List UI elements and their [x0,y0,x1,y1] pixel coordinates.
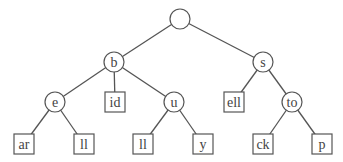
internal-node-root [170,9,190,29]
node-label: to [287,95,298,110]
node-label: y [200,137,207,152]
node-circle [170,9,190,29]
leaf-node-ck: ck [253,134,273,154]
leaf-node-ar: ar [14,134,34,154]
node-label: ck [256,137,269,152]
node-label: b [111,55,118,70]
edge-root-b [114,19,180,62]
internal-node-u: u [164,92,184,112]
leaf-node-p: p [312,134,332,154]
node-label: p [319,137,326,152]
node-label: e [52,95,58,110]
edge-root-s [180,19,263,62]
internal-node-s: s [253,52,273,72]
internal-node-to: to [282,92,302,112]
node-label: ell [227,95,241,110]
leaf-node-id: id [105,92,125,112]
nodes: bseiduelltoarllllyckp [14,9,332,154]
leaf-node-ell: ell [224,92,244,112]
leaf-node-y: y [193,134,213,154]
leaf-node-ll2: ll [133,134,153,154]
node-label: id [110,95,121,110]
internal-node-b: b [104,52,124,72]
leaf-node-ll1: ll [74,134,94,154]
node-label: ll [80,137,88,152]
internal-node-e: e [45,92,65,112]
trie-diagram: bseiduelltoarllllyckp [0,0,343,162]
node-label: ll [139,137,147,152]
edges [24,19,322,144]
node-label: ar [19,137,30,152]
node-label: u [171,95,178,110]
node-label: s [260,55,265,70]
